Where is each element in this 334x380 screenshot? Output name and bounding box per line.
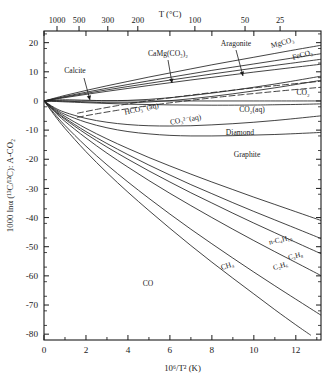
y-tick-label: -60 <box>26 271 39 281</box>
x-tick-label: 10 <box>249 345 259 355</box>
top-tick-label: 1000 <box>49 16 66 25</box>
y-tick-label: 10 <box>29 67 39 77</box>
x-tick-label: 0 <box>42 345 47 355</box>
y-axis-title: 1000 lnα (¹³C/¹²C): A-CO₂ <box>5 139 15 232</box>
annotation-CaMg(CO3)2: CaMg(CO₃)₂ <box>148 49 188 58</box>
x-tick-label: 8 <box>210 345 215 355</box>
y-tick-label: -30 <box>26 184 39 194</box>
annotation-CO2-aq: CO₂(aq) <box>239 105 265 114</box>
chart-canvas: 024681012 20100-10-20-30-40-50-60-70-80 … <box>0 0 334 380</box>
annotation-Graphite: Graphite <box>234 150 261 159</box>
x-axis-title: 10⁶/T² (K) <box>164 363 201 373</box>
y-tick-label: -80 <box>26 329 39 339</box>
x-tick-label: 2 <box>84 345 89 355</box>
top-tick-label: 300 <box>102 16 115 25</box>
x-tick-label: 4 <box>126 345 131 355</box>
top-tick-label: 50 <box>241 16 249 25</box>
top-tick-label: 200 <box>132 16 145 25</box>
y-tick-label: -50 <box>26 242 39 252</box>
x-tick-label: 6 <box>168 345 173 355</box>
annotation-CO2: CO₂ <box>296 88 310 97</box>
top-axis-title: T (°C) <box>159 9 182 19</box>
y-tick-label: 0 <box>33 96 38 106</box>
y-tick-label: 20 <box>29 38 39 48</box>
y-tick-label: -10 <box>26 125 39 135</box>
top-tick-label: 25 <box>276 16 284 25</box>
annotation-Diamond: Diamond <box>226 128 254 137</box>
annotation-Aragonite: Aragonite <box>221 39 252 48</box>
top-tick-label: 100 <box>189 16 202 25</box>
y-tick-label: -20 <box>26 154 39 164</box>
annotation-CO: CO <box>143 279 154 288</box>
y-tick-label: -40 <box>26 213 39 223</box>
top-tick-label: 500 <box>73 16 86 25</box>
y-tick-label: -70 <box>26 300 39 310</box>
x-tick-label: 12 <box>291 345 301 355</box>
carbon-isotope-fractionation-figure: 024681012 20100-10-20-30-40-50-60-70-80 … <box>0 0 334 380</box>
annotation-Calcite: Calcite <box>64 66 86 75</box>
